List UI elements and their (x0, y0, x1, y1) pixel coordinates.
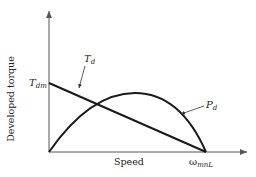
td-leader-arrow (79, 66, 85, 88)
y-axis-label: Developed torque (5, 56, 16, 142)
torque-speed-diagram: Tdm Td Pd ωmnL Speed Developed torque (0, 0, 256, 177)
power-curve (49, 93, 206, 152)
pd-leader-arrow (181, 106, 204, 114)
omega-label: ωmnL (189, 156, 213, 169)
x-axis-label: Speed (114, 156, 144, 167)
tdm-label: Tdm (29, 77, 47, 90)
td-label: Td (84, 53, 96, 66)
pd-label: Pd (205, 99, 218, 112)
